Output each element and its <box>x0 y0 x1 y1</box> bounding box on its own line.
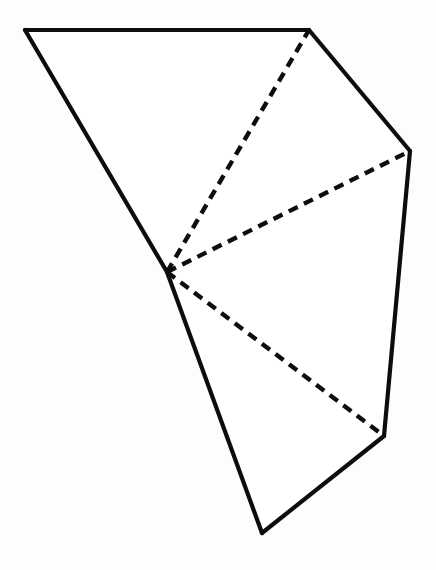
figure-interior-fill <box>25 30 410 533</box>
figure-canvas <box>0 0 436 570</box>
geometric-figure <box>0 0 436 570</box>
